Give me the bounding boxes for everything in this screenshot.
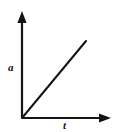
y-axis-arrowhead-icon xyxy=(17,11,26,23)
y-axis-label: a xyxy=(8,62,14,73)
acceleration-time-graph: a t xyxy=(0,0,117,132)
x-axis-arrowhead-icon xyxy=(99,113,111,122)
plot-area xyxy=(0,0,117,132)
data-line-series-1 xyxy=(22,41,86,118)
x-axis-label: t xyxy=(63,120,66,131)
